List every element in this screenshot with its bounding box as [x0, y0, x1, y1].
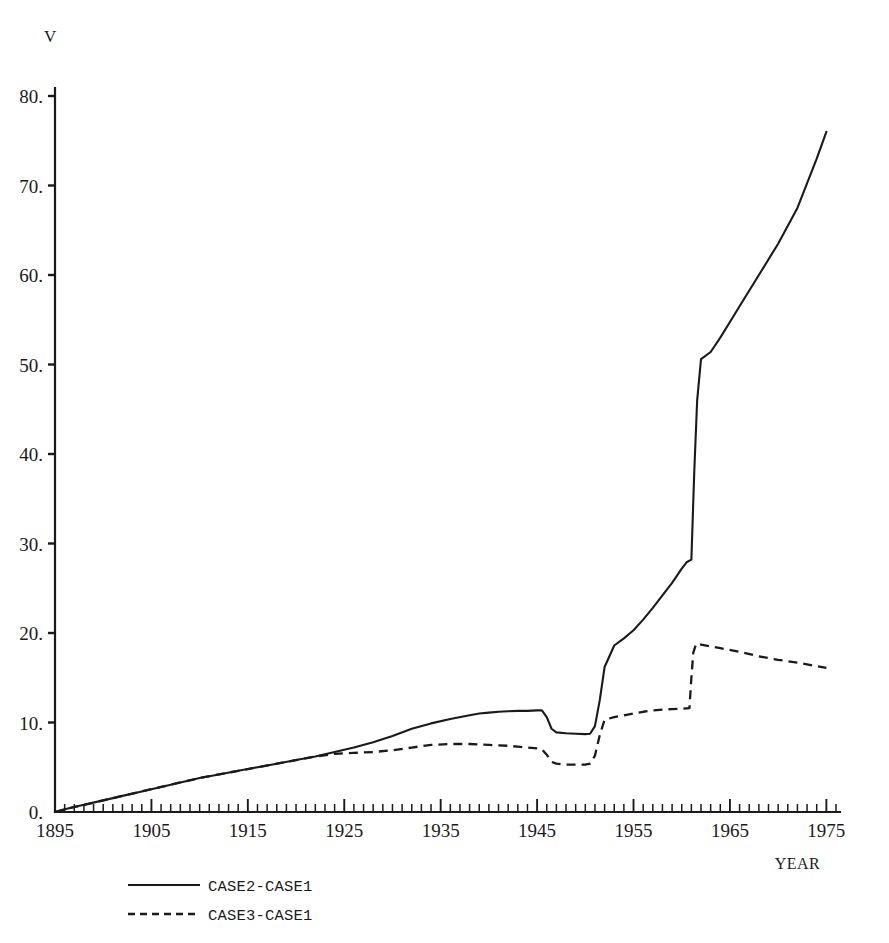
series-line-2 — [55, 644, 826, 812]
y-axis-title: V — [44, 27, 57, 46]
x-tick-label: 1895 — [36, 820, 74, 841]
line-chart: 0.10.20.30.40.50.60.70.80.18951905191519… — [0, 0, 889, 943]
x-tick-label: 1925 — [325, 820, 363, 841]
legend-label-1: CASE2-CASE1 — [208, 878, 313, 896]
x-tick-label: 1935 — [422, 820, 460, 841]
series-line-1 — [55, 132, 826, 812]
x-tick-label: 1965 — [711, 820, 749, 841]
chart-figure: 0.10.20.30.40.50.60.70.80.18951905191519… — [0, 0, 889, 943]
y-tick-label: 10. — [19, 713, 43, 734]
x-tick-label: 1915 — [229, 820, 267, 841]
y-tick-label: 30. — [19, 534, 43, 555]
y-tick-label: 60. — [19, 265, 43, 286]
y-tick-label: 40. — [19, 444, 43, 465]
y-tick-label: 20. — [19, 623, 43, 644]
legend-label-2: CASE3-CASE1 — [208, 907, 313, 925]
x-axis-title: YEAR — [775, 855, 821, 872]
x-tick-label: 1955 — [615, 820, 653, 841]
x-tick-label: 1975 — [807, 820, 845, 841]
x-tick-label: 1945 — [518, 820, 556, 841]
y-tick-label: 70. — [19, 176, 43, 197]
x-tick-label: 1905 — [132, 820, 170, 841]
y-tick-label: 50. — [19, 355, 43, 376]
y-tick-label: 80. — [19, 86, 43, 107]
